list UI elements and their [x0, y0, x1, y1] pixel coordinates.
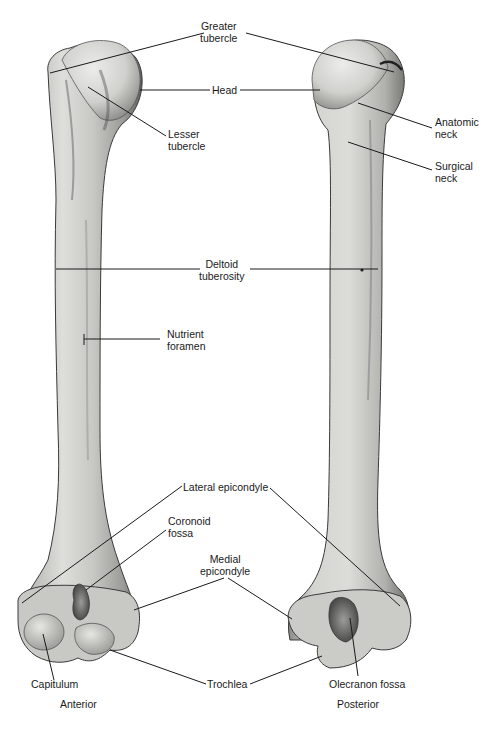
label-line: Capitulum [31, 678, 78, 690]
label-olecranon-fossa: Olecranon fossa [329, 678, 405, 690]
humerus-diagram [0, 0, 500, 730]
label-line: Anatomic [435, 116, 479, 128]
label-line: Trochlea [207, 678, 247, 690]
label-line: Lateral epicondyle [183, 481, 268, 493]
label-nutrient-foramen: Nutrient foramen [167, 328, 206, 352]
label-deltoid-tuberosity: Deltoid tuberosity [199, 258, 245, 282]
label-line: epicondyle [200, 565, 250, 577]
label-line: Nutrient [167, 328, 206, 340]
label-line: Coronoid [168, 515, 211, 527]
label-line: Medial [200, 553, 250, 565]
label-line: neck [435, 172, 473, 184]
label-line: Head [212, 84, 237, 96]
label-surgical-neck: Surgical neck [435, 160, 473, 184]
label-head: Head [212, 84, 237, 96]
label-capitulum: Capitulum [31, 678, 78, 690]
label-line: Lesser [168, 128, 205, 140]
label-lesser-tubercle: Lesser tubercle [168, 128, 205, 152]
label-line: fossa [168, 527, 211, 539]
label-line: tubercle [168, 140, 205, 152]
label-anatomic-neck: Anatomic neck [435, 116, 479, 140]
label-medial-epicondyle: Medial epicondyle [200, 553, 250, 577]
label-line: Olecranon fossa [329, 678, 405, 690]
label-line: tubercle [200, 32, 237, 44]
posterior-humerus [288, 40, 411, 668]
label-lateral-epicondyle: Lateral epicondyle [183, 481, 268, 493]
label-line: Greater [200, 20, 237, 32]
anterior-humerus [18, 41, 142, 663]
label-line: tuberosity [199, 270, 245, 282]
label-line: Deltoid [199, 258, 245, 270]
label-line: foramen [167, 340, 206, 352]
label-coronoid-fossa: Coronoid fossa [168, 515, 211, 539]
label-trochlea: Trochlea [207, 678, 247, 690]
view-label-posterior: Posterior [337, 698, 379, 710]
label-greater-tubercle: Greater tubercle [200, 20, 237, 44]
label-line: Surgical [435, 160, 473, 172]
label-line: neck [435, 128, 479, 140]
view-label-anterior: Anterior [60, 698, 97, 710]
